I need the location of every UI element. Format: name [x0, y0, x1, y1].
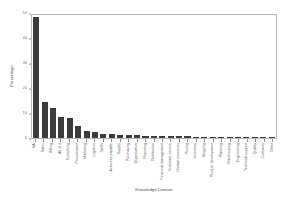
bar-slot — [167, 15, 175, 138]
bar — [269, 137, 275, 138]
x-axis-label-slot: Warehousing — [226, 142, 234, 186]
bar — [235, 137, 241, 138]
bar — [109, 134, 115, 138]
bar — [142, 136, 148, 138]
x-axis-tick-label: Logistics — [93, 143, 97, 157]
x-axis-tick-label: Reporting — [144, 143, 148, 159]
bar — [159, 136, 165, 138]
x-axis-label-slot: Marketing — [82, 142, 90, 186]
x-axis-label-slot: Tariffs — [99, 142, 107, 186]
x-axis-tick-label: Engineering — [237, 143, 241, 162]
y-axis-tick-label: 20 — [23, 87, 27, 91]
bar-slot — [175, 15, 183, 138]
bar — [75, 126, 81, 138]
x-axis-label-slot: NA — [31, 142, 39, 186]
y-axis-tick-label: 30 — [23, 62, 27, 66]
bar-slot — [217, 15, 225, 138]
bar — [218, 137, 224, 138]
bar-slot — [158, 15, 166, 138]
x-axis-title: Knowledge Domain — [31, 188, 277, 192]
x-axis-tick-label: Product development — [212, 143, 216, 177]
bar-slot — [192, 15, 200, 138]
bar — [168, 136, 174, 138]
x-axis-label-slot: Quality — [252, 142, 260, 186]
bar-slot — [49, 15, 57, 138]
x-axis-label-slot: Procurement — [73, 142, 81, 186]
bar-slot — [267, 15, 275, 138]
bar-slot — [116, 15, 124, 138]
bar — [134, 135, 140, 138]
x-axis-tick-label: Organisation — [135, 143, 139, 163]
bar-slot — [234, 15, 242, 138]
x-axis-label-slot: Sales — [39, 142, 47, 186]
x-axis-tick-label: Contracts — [263, 143, 267, 158]
bar-slot — [209, 15, 217, 138]
x-axis-tick-label: Financial management — [161, 143, 165, 179]
x-axis-label-slot: Distribution — [150, 142, 158, 186]
x-axis-tick-label: Shipping — [203, 143, 207, 157]
bar-slot — [133, 15, 141, 138]
x-axis-tick-label: Tariffs — [101, 143, 105, 153]
bar-series — [32, 15, 276, 138]
x-axis-tick-label: Everything — [67, 143, 71, 160]
bar-slot — [183, 15, 191, 138]
y-axis-tick-label: 10 — [23, 112, 27, 116]
x-axis-tick-label: Accounts payable — [110, 143, 114, 171]
x-axis-tick-label: Marketing — [84, 143, 88, 159]
x-axis-tick-label: Pricing — [186, 143, 190, 154]
x-axis-label-slot: Engineering — [235, 142, 243, 186]
bar — [193, 137, 199, 138]
x-axis-tick-label: Other — [271, 143, 275, 152]
x-axis-tick-label: Quality — [254, 143, 258, 154]
x-axis-label-slot: Planning — [218, 142, 226, 186]
bar — [33, 17, 39, 138]
bar — [210, 137, 216, 138]
y-axis: 01020304050 — [0, 14, 31, 139]
bar-slot — [242, 15, 250, 138]
bar — [151, 136, 157, 138]
x-axis-tick-label: Purchasing — [127, 143, 131, 161]
bar-slot — [32, 15, 40, 138]
x-axis-tick-label: Supply — [118, 143, 122, 154]
x-axis-label-slot: Shipping — [201, 142, 209, 186]
x-axis-label-slot: Financial management — [158, 142, 166, 186]
bar — [201, 137, 207, 138]
bar — [126, 135, 132, 138]
bar-slot — [40, 15, 48, 138]
x-axis-tick-label: All of it — [59, 143, 63, 154]
x-axis-label-slot: Other — [269, 142, 277, 186]
x-axis-label-slot: All of it — [56, 142, 64, 186]
bar-slot — [99, 15, 107, 138]
x-axis-tick-label: Distribution — [152, 143, 156, 161]
bar-slot — [108, 15, 116, 138]
bar-slot — [66, 15, 74, 138]
x-axis-label-slot: Inventory — [192, 142, 200, 186]
bar-chart-figure: Percentage 01020304050 NASalesBillingAll… — [0, 0, 297, 203]
bar — [227, 137, 233, 138]
x-axis-labels: NASalesBillingAll of itEverythingProcure… — [31, 142, 277, 186]
x-axis-label-slot: Billing — [48, 142, 56, 186]
x-axis-tick-label: Human resources — [178, 143, 182, 171]
bar — [67, 118, 73, 138]
x-axis-label-slot: Logistics — [90, 142, 98, 186]
plot-area — [31, 14, 277, 139]
x-axis-tick-label: Warehousing — [229, 143, 233, 164]
x-axis-tick-label: Inventory — [195, 143, 199, 158]
bar — [243, 137, 249, 138]
bar — [260, 137, 266, 138]
bar-slot — [57, 15, 65, 138]
bar-slot — [141, 15, 149, 138]
x-axis-label-slot: Everything — [65, 142, 73, 186]
x-axis-label-slot: Reporting — [141, 142, 149, 186]
bar-slot — [200, 15, 208, 138]
bar-slot — [251, 15, 259, 138]
x-axis-tick-label: Customer service — [169, 143, 173, 171]
x-axis-label-slot: Supply — [116, 142, 124, 186]
bar-slot — [74, 15, 82, 138]
x-axis-label-slot: Human resources — [175, 142, 183, 186]
bar — [84, 131, 90, 138]
x-axis-tick-label: Planning — [220, 143, 224, 157]
bar-slot — [150, 15, 158, 138]
x-axis-label-slot: Purchasing — [124, 142, 132, 186]
x-axis-label-slot: Customer service — [167, 142, 175, 186]
